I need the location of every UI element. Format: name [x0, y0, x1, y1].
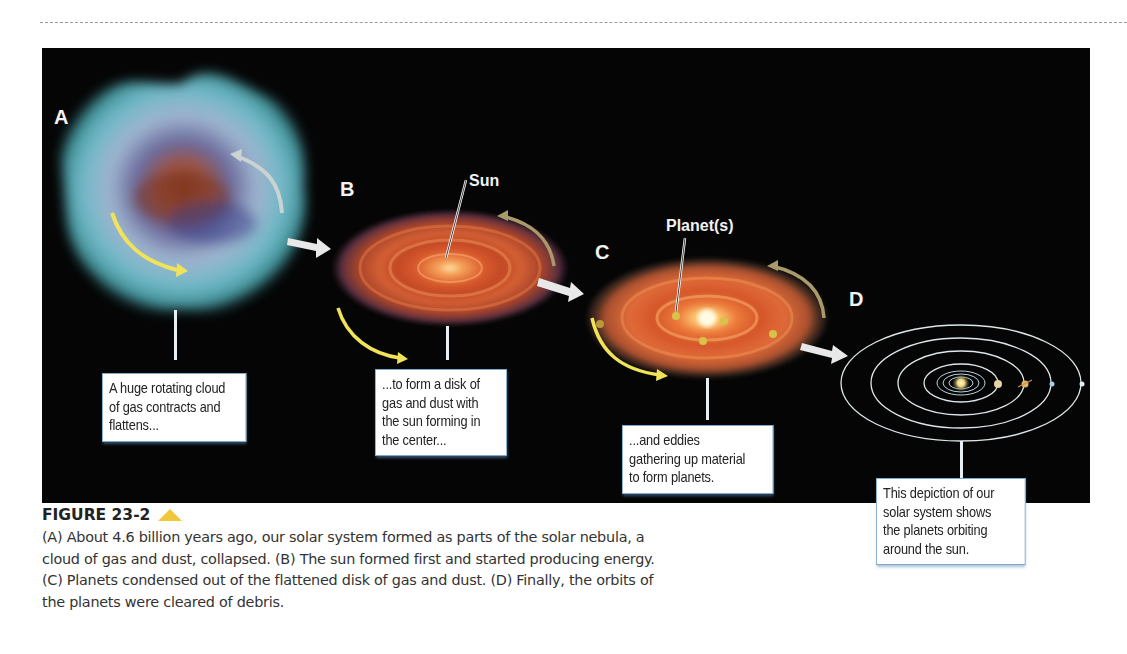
callout-c-line-1: ...and eddies — [629, 431, 767, 450]
yellow-triangle-icon — [158, 509, 182, 521]
callout-d-line-1: This depiction of our — [883, 484, 1019, 503]
callout-d-line-4: around the sun. — [883, 540, 1019, 559]
figure-title: FIGURE 23-2 — [42, 505, 822, 525]
sun-label: Sun — [469, 172, 499, 190]
figure-number: FIGURE 23-2 — [42, 506, 150, 524]
callout-stage-a: A huge rotating cloud of gas contracts a… — [102, 373, 246, 442]
callout-c-line-3: to form planets. — [629, 468, 767, 487]
planets-label: Planet(s) — [666, 217, 734, 235]
callout-b-line-4: the center... — [382, 431, 501, 450]
callout-pointer-a — [174, 310, 177, 360]
stage-letter-a: A — [54, 106, 68, 129]
figure-caption: FIGURE 23-2 (A) About 4.6 billion years … — [42, 505, 822, 613]
callout-pointer-c — [706, 378, 709, 420]
stage-letter-c: C — [595, 241, 609, 264]
caption-line-3: (C) Planets condensed out of the flatten… — [42, 570, 822, 592]
callout-b-line-3: the sun forming in — [382, 412, 501, 431]
nebula-cloud — [61, 73, 306, 312]
callout-stage-c: ...and eddies gathering up material to f… — [622, 425, 773, 494]
caption-text: (A) About 4.6 billion years ago, our sol… — [42, 527, 822, 613]
caption-line-4: the planets were cleared of debris. — [42, 592, 822, 614]
callout-pointer-b — [446, 326, 449, 360]
callout-a-line-2: of gas contracts and — [109, 398, 240, 417]
callout-b-line-2: gas and dust with — [382, 394, 501, 413]
page-divider — [40, 22, 1127, 23]
callout-b-line-1: ...to form a disk of — [382, 375, 501, 394]
callout-d-line-2: solar system shows — [883, 503, 1019, 522]
caption-line-2: cloud of gas and dust, collapsed. (B) Th… — [42, 549, 822, 571]
callout-stage-d: This depiction of our solar system shows… — [876, 478, 1026, 565]
stage-letter-b: B — [340, 178, 354, 201]
callout-c-line-2: gathering up material — [629, 450, 767, 469]
callout-a-line-3: flattens... — [109, 416, 240, 435]
callout-d-line-3: the planets orbiting — [883, 521, 1019, 540]
callout-pointer-d — [960, 441, 963, 479]
callout-stage-b: ...to form a disk of gas and dust with t… — [375, 369, 507, 456]
caption-line-1: (A) About 4.6 billion years ago, our sol… — [42, 527, 822, 549]
callout-a-line-1: A huge rotating cloud — [109, 379, 240, 398]
stage-letter-d: D — [849, 288, 863, 311]
